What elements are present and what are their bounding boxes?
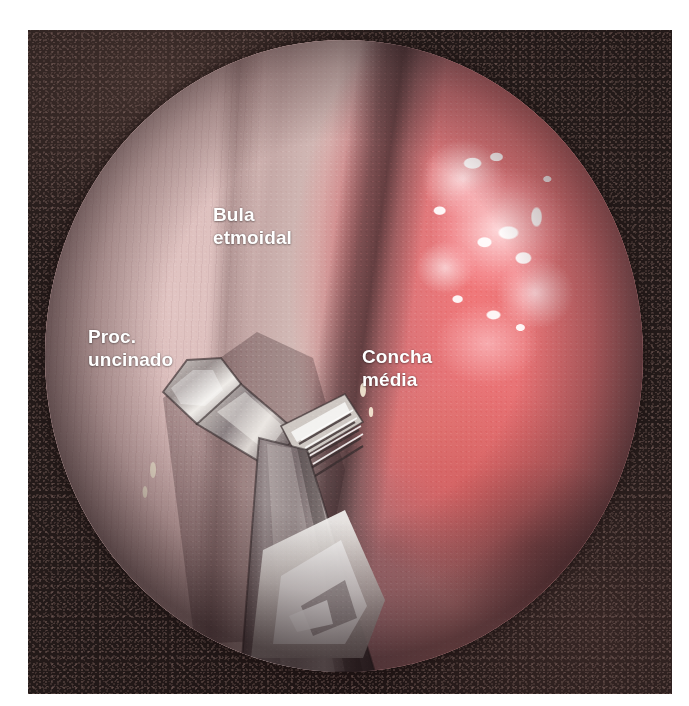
endoscope-vignette [45, 40, 643, 672]
endoscope-field [45, 40, 643, 672]
photo-matte [28, 30, 672, 694]
screenshot-root: Bula etmoidal Proc. uncinado Concha médi… [0, 0, 689, 706]
